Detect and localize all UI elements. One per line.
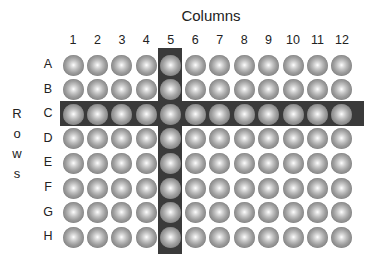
row-label-A: A bbox=[40, 57, 56, 71]
well-A2 bbox=[87, 55, 108, 76]
column-label-5: 5 bbox=[159, 33, 183, 47]
well-D4 bbox=[136, 128, 157, 149]
well-G9 bbox=[258, 202, 279, 223]
well-G6 bbox=[185, 202, 206, 223]
well-H10 bbox=[283, 227, 304, 248]
well-A3 bbox=[111, 55, 132, 76]
well-G11 bbox=[307, 202, 328, 223]
well-G12 bbox=[331, 202, 352, 223]
well-E7 bbox=[209, 153, 230, 174]
well-G1 bbox=[63, 202, 84, 223]
column-label-7: 7 bbox=[208, 33, 232, 47]
well-B6 bbox=[185, 79, 206, 100]
well-B7 bbox=[209, 79, 230, 100]
well-A6 bbox=[185, 55, 206, 76]
well-G7 bbox=[209, 202, 230, 223]
well-E9 bbox=[258, 153, 279, 174]
well-C7 bbox=[209, 104, 230, 125]
well-B1 bbox=[63, 79, 84, 100]
well-B12 bbox=[331, 79, 352, 100]
well-D8 bbox=[234, 128, 255, 149]
well-C5 bbox=[160, 104, 181, 125]
well-E11 bbox=[307, 153, 328, 174]
well-G10 bbox=[283, 202, 304, 223]
well-F11 bbox=[307, 178, 328, 199]
column-label-1: 1 bbox=[61, 33, 85, 47]
well-D10 bbox=[283, 128, 304, 149]
well-F7 bbox=[209, 178, 230, 199]
well-E1 bbox=[63, 153, 84, 174]
column-label-10: 10 bbox=[281, 33, 305, 47]
well-H6 bbox=[185, 227, 206, 248]
well-E6 bbox=[185, 153, 206, 174]
rows-letter: w bbox=[8, 146, 26, 161]
well-D6 bbox=[185, 128, 206, 149]
column-label-8: 8 bbox=[232, 33, 256, 47]
well-C10 bbox=[283, 104, 304, 125]
rows-letter: s bbox=[8, 166, 26, 181]
well-B2 bbox=[87, 79, 108, 100]
well-D9 bbox=[258, 128, 279, 149]
column-label-9: 9 bbox=[257, 33, 281, 47]
well-E10 bbox=[283, 153, 304, 174]
well-D2 bbox=[87, 128, 108, 149]
well-G4 bbox=[136, 202, 157, 223]
row-label-H: H bbox=[40, 229, 56, 243]
well-G8 bbox=[234, 202, 255, 223]
well-C3 bbox=[111, 104, 132, 125]
well-F9 bbox=[258, 178, 279, 199]
well-H9 bbox=[258, 227, 279, 248]
well-C12 bbox=[331, 104, 352, 125]
well-A7 bbox=[209, 55, 230, 76]
well-B10 bbox=[283, 79, 304, 100]
well-H3 bbox=[111, 227, 132, 248]
well-B11 bbox=[307, 79, 328, 100]
well-H1 bbox=[63, 227, 84, 248]
well-F12 bbox=[331, 178, 352, 199]
well-A8 bbox=[234, 55, 255, 76]
well-H11 bbox=[307, 227, 328, 248]
row-label-F: F bbox=[40, 180, 56, 194]
well-E3 bbox=[111, 153, 132, 174]
well-F3 bbox=[111, 178, 132, 199]
well-F2 bbox=[87, 178, 108, 199]
well-A9 bbox=[258, 55, 279, 76]
columns-title: Columns bbox=[0, 7, 372, 24]
well-H5 bbox=[160, 227, 181, 248]
well-D1 bbox=[63, 128, 84, 149]
row-label-B: B bbox=[40, 82, 56, 96]
well-H7 bbox=[209, 227, 230, 248]
well-G2 bbox=[87, 202, 108, 223]
well-A12 bbox=[331, 55, 352, 76]
row-label-D: D bbox=[40, 131, 56, 145]
well-H12 bbox=[331, 227, 352, 248]
well-F6 bbox=[185, 178, 206, 199]
column-label-11: 11 bbox=[306, 33, 330, 47]
well-B4 bbox=[136, 79, 157, 100]
well-F5 bbox=[160, 178, 181, 199]
well-C2 bbox=[87, 104, 108, 125]
well-D7 bbox=[209, 128, 230, 149]
well-F1 bbox=[63, 178, 84, 199]
row-label-E: E bbox=[40, 155, 56, 169]
rows-letter: o bbox=[8, 126, 26, 141]
column-label-2: 2 bbox=[85, 33, 109, 47]
well-E4 bbox=[136, 153, 157, 174]
well-E8 bbox=[234, 153, 255, 174]
well-C1 bbox=[63, 104, 84, 125]
well-A5 bbox=[160, 55, 181, 76]
well-B8 bbox=[234, 79, 255, 100]
rows-letter: R bbox=[8, 106, 26, 121]
well-F8 bbox=[234, 178, 255, 199]
well-F10 bbox=[283, 178, 304, 199]
well-B9 bbox=[258, 79, 279, 100]
well-B3 bbox=[111, 79, 132, 100]
column-label-6: 6 bbox=[183, 33, 207, 47]
well-C6 bbox=[185, 104, 206, 125]
well-A1 bbox=[63, 55, 84, 76]
well-H2 bbox=[87, 227, 108, 248]
well-D12 bbox=[331, 128, 352, 149]
well-H4 bbox=[136, 227, 157, 248]
well-E2 bbox=[87, 153, 108, 174]
column-label-3: 3 bbox=[110, 33, 134, 47]
